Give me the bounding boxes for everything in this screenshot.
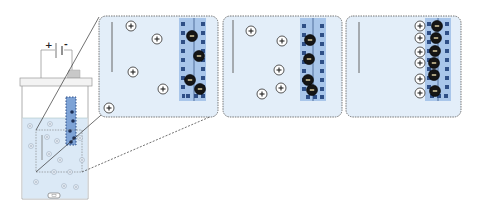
anion — [187, 31, 198, 42]
cation — [126, 21, 136, 31]
cation — [415, 21, 425, 31]
cation — [276, 83, 286, 93]
anion — [304, 54, 315, 65]
anion — [431, 33, 442, 44]
zoom-line-bottom — [82, 116, 212, 172]
cation — [128, 67, 138, 77]
beaker-assembly: + - — [20, 39, 92, 199]
anion — [185, 75, 196, 86]
anion — [430, 46, 441, 57]
anion — [307, 85, 318, 96]
panel-stage-3 — [346, 16, 461, 117]
battery-negative-label: - — [64, 39, 68, 49]
beaker-lid — [20, 78, 92, 86]
panel-stage-1 — [99, 16, 218, 117]
anion — [432, 21, 443, 32]
anion — [430, 86, 441, 97]
cation — [274, 65, 284, 75]
anion — [429, 70, 440, 81]
anion — [305, 35, 316, 46]
anion — [194, 51, 205, 62]
cation — [415, 47, 425, 57]
anion — [195, 84, 206, 95]
cation — [415, 88, 425, 98]
stir-bar-center — [52, 195, 56, 197]
cation — [257, 89, 267, 99]
cation — [415, 74, 425, 84]
double-layer-diagram: + - — [0, 0, 483, 211]
cation — [158, 84, 168, 94]
cation — [246, 26, 256, 36]
cation — [277, 36, 287, 46]
anion — [303, 75, 314, 86]
battery-positive-label: + — [45, 40, 53, 50]
cation — [415, 33, 425, 43]
cation — [415, 58, 425, 68]
cation — [152, 34, 162, 44]
panel-stage-2 — [223, 16, 342, 117]
anion — [429, 58, 440, 69]
cation — [104, 103, 114, 113]
